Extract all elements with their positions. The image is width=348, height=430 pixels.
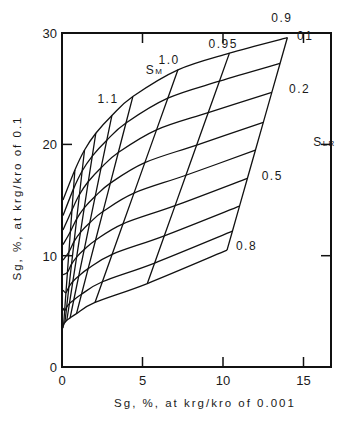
x-tick-label: 5 xyxy=(139,373,146,388)
axis-ticks: 0510150102030 xyxy=(43,26,331,388)
curve-label: SLR xyxy=(313,135,336,149)
y-tick-label: 10 xyxy=(43,249,57,264)
curve-label: 0.5 xyxy=(262,169,283,183)
y-axis-title: Sg, %, at krg/kro of 0.1 xyxy=(11,116,23,281)
slr-curve xyxy=(63,250,227,328)
curve-label: 01 xyxy=(297,29,313,43)
slr-curve xyxy=(63,92,272,230)
x-axis-title: Sg, %, at krg/kro of 0.001 xyxy=(114,397,296,409)
slr-curve xyxy=(63,150,255,260)
x-tick-label: 0 xyxy=(58,373,65,388)
curve-label: 1.1 xyxy=(97,92,118,106)
y-tick-label: 0 xyxy=(50,360,57,375)
curve-label: 0.9 xyxy=(271,11,292,25)
x-tick-label: 15 xyxy=(296,373,310,388)
curve-label: 1.0 xyxy=(159,53,180,67)
y-tick-label: 20 xyxy=(43,137,57,152)
sg-correlation-chart: 0510150102030 SM1.11.00.950.9010.2SLR0.5… xyxy=(0,0,348,430)
sm-slr-grid xyxy=(63,38,287,328)
curve-label: 0.95 xyxy=(209,37,238,51)
x-tick-label: 10 xyxy=(216,373,230,388)
curve-annotations: SM1.11.00.950.9010.2SLR0.50.8 xyxy=(97,11,335,253)
slr-curve xyxy=(63,206,240,293)
slr-curve xyxy=(63,231,232,311)
curve-label: 0.2 xyxy=(289,82,310,96)
y-tick-label: 30 xyxy=(43,26,57,41)
curve-label: 0.8 xyxy=(236,239,257,253)
